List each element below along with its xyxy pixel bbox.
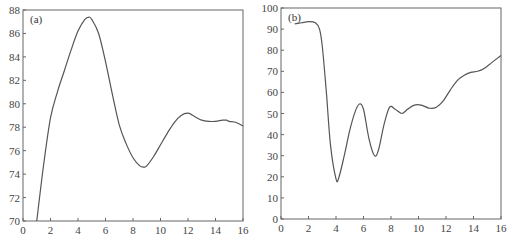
y-tick-label: 86 bbox=[9, 27, 21, 39]
y-tick-label: 70 bbox=[267, 65, 279, 77]
x-tick-label: 2 bbox=[48, 224, 54, 236]
x-tick-label: 16 bbox=[496, 222, 508, 234]
x-tick-label: 8 bbox=[388, 222, 394, 234]
x-tick-label: 8 bbox=[130, 224, 136, 236]
y-tick-label: 40 bbox=[267, 129, 279, 141]
chart-panel-a: 024681012141670727476788082848688(a) bbox=[9, 4, 249, 236]
x-tick-label: 0 bbox=[278, 222, 284, 234]
y-tick-label: 74 bbox=[9, 168, 21, 180]
plot-frame bbox=[281, 8, 501, 219]
x-tick-label: 12 bbox=[183, 224, 194, 236]
y-tick-label: 100 bbox=[262, 2, 279, 14]
y-tick-label: 0 bbox=[273, 213, 279, 225]
y-tick-label: 70 bbox=[9, 215, 21, 227]
x-tick-label: 10 bbox=[413, 222, 425, 234]
x-tick-label: 4 bbox=[333, 222, 339, 234]
y-tick-label: 90 bbox=[267, 23, 279, 35]
x-tick-label: 16 bbox=[238, 224, 250, 236]
y-tick-label: 88 bbox=[9, 4, 21, 16]
panel-label: (b) bbox=[288, 11, 301, 24]
y-tick-label: 80 bbox=[9, 98, 21, 110]
y-tick-label: 76 bbox=[9, 145, 21, 157]
y-tick-label: 30 bbox=[267, 150, 279, 162]
x-tick-label: 0 bbox=[20, 224, 26, 236]
y-tick-label: 20 bbox=[267, 171, 279, 183]
chart-figure: 024681012141670727476788082848688(a) 024… bbox=[0, 0, 508, 240]
x-tick-label: 14 bbox=[468, 222, 480, 234]
y-tick-label: 72 bbox=[9, 192, 20, 204]
chart-panel-b: 02468101214160102030405060708090100(b) bbox=[262, 2, 508, 234]
y-tick-label: 78 bbox=[9, 121, 21, 133]
data-curve bbox=[295, 22, 501, 182]
plot-frame bbox=[23, 10, 243, 221]
y-tick-label: 82 bbox=[9, 74, 20, 86]
x-tick-label: 4 bbox=[75, 224, 81, 236]
x-tick-label: 2 bbox=[306, 222, 312, 234]
x-tick-label: 6 bbox=[361, 222, 367, 234]
y-tick-label: 50 bbox=[267, 108, 279, 120]
y-tick-label: 80 bbox=[267, 44, 279, 56]
data-curve bbox=[37, 17, 243, 221]
y-tick-label: 60 bbox=[267, 86, 279, 98]
x-tick-label: 14 bbox=[210, 224, 222, 236]
x-tick-label: 12 bbox=[441, 222, 452, 234]
y-tick-label: 84 bbox=[9, 51, 21, 63]
x-tick-label: 6 bbox=[103, 224, 109, 236]
panel-label: (a) bbox=[30, 13, 43, 26]
x-tick-label: 10 bbox=[155, 224, 167, 236]
y-tick-label: 10 bbox=[267, 192, 279, 204]
